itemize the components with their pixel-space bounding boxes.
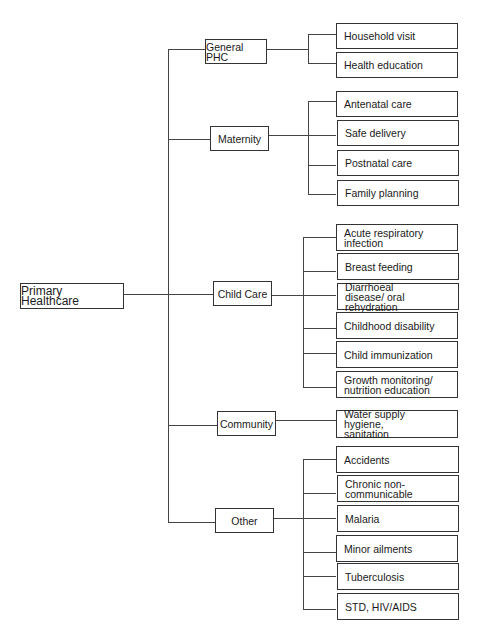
- item-household-visit: Household visit: [336, 23, 458, 49]
- item-label: Chronic non-communicable: [345, 479, 415, 499]
- category-child-care: Child Care: [213, 281, 272, 306]
- branch-trunk: [308, 101, 309, 194]
- item-label: Accidents: [344, 455, 390, 465]
- connector: [303, 237, 336, 238]
- branch-trunk: [303, 459, 304, 609]
- connector: [303, 459, 336, 460]
- item-accidents: Accidents: [336, 446, 459, 473]
- item-label: Malaria: [345, 514, 379, 524]
- connector: [267, 49, 308, 50]
- item-childhood-disability: Childhood disability: [336, 312, 458, 339]
- item-antenatal-care: Antenatal care: [336, 91, 458, 117]
- root-label: Primary Healthcare: [21, 286, 123, 306]
- item-label: Growth monitoring/ nutrition education: [344, 375, 434, 395]
- connector: [276, 420, 336, 421]
- item-health-education: Health education: [336, 52, 458, 78]
- item-minor-ailments: Minor ailments: [336, 535, 458, 562]
- item-label: Breast feeding: [345, 262, 413, 272]
- item-water-supply: Water supply hygiene, sanitation: [336, 410, 458, 438]
- category-label: Other: [231, 516, 257, 526]
- item-label: Safe delivery: [345, 128, 406, 138]
- item-growth-monitoring: Growth monitoring/ nutrition education: [336, 371, 458, 398]
- connector: [269, 135, 336, 136]
- item-label: Diarrhoeal disease/ oral rehydration: [345, 282, 435, 312]
- item-label: Childhood disability: [344, 321, 434, 331]
- item-label: Child immunization: [344, 350, 433, 360]
- connector: [303, 328, 336, 329]
- connector: [303, 353, 336, 354]
- item-label: Antenatal care: [344, 99, 412, 109]
- connector: [303, 576, 336, 577]
- root-node: Primary Healthcare: [20, 283, 124, 309]
- item-label: Household visit: [344, 31, 415, 41]
- item-label: Tuberculosis: [345, 572, 404, 582]
- item-label: Minor ailments: [344, 544, 412, 554]
- category-other: Other: [215, 508, 274, 533]
- item-family-planning: Family planning: [337, 180, 459, 206]
- main-spine: [168, 49, 169, 523]
- category-maternity: Maternity: [210, 126, 269, 151]
- connector: [168, 522, 215, 523]
- category-general-phc: General PHC: [205, 39, 267, 64]
- item-malaria: Malaria: [337, 505, 459, 532]
- connector: [274, 518, 336, 519]
- item-breast-feeding: Breast feeding: [337, 253, 459, 280]
- connector: [168, 294, 213, 295]
- item-label: Health education: [344, 60, 423, 70]
- branch-trunk: [303, 237, 304, 387]
- item-tuberculosis: Tuberculosis: [337, 563, 459, 590]
- connector: [308, 101, 336, 102]
- category-label: Maternity: [218, 134, 261, 144]
- item-label: Postnatal care: [345, 158, 412, 168]
- item-postnatal-care: Postnatal care: [337, 150, 459, 176]
- item-label: Water supply hygiene, sanitation: [344, 409, 429, 439]
- item-label: Family planning: [345, 188, 419, 198]
- item-label: Acute respiratory infection: [344, 228, 434, 248]
- connector: [303, 609, 336, 610]
- category-label: Child Care: [218, 289, 268, 299]
- connector: [124, 294, 168, 295]
- connector: [168, 49, 205, 50]
- connector: [303, 493, 336, 494]
- category-label: General PHC: [206, 42, 266, 62]
- branch-trunk: [308, 34, 309, 63]
- category-community: Community: [217, 411, 276, 436]
- connector: [308, 34, 336, 35]
- connector: [308, 63, 336, 64]
- item-std-hiv-aids: STD, HIV/AIDS: [337, 593, 459, 620]
- item-safe-delivery: Safe delivery: [337, 120, 459, 146]
- connector: [168, 425, 217, 426]
- connector: [308, 165, 336, 166]
- item-chronic-non-communicable: Chronic non-communicable: [337, 475, 459, 502]
- category-label: Community: [220, 419, 273, 429]
- item-diarrhoeal-disease: Diarrhoeal disease/ oral rehydration: [337, 283, 459, 310]
- connector: [303, 552, 336, 553]
- connector: [308, 194, 336, 195]
- item-acute-respiratory-infection: Acute respiratory infection: [336, 224, 458, 251]
- connector: [168, 139, 210, 140]
- connector: [303, 271, 336, 272]
- item-label: STD, HIV/AIDS: [345, 602, 417, 612]
- item-child-immunization: Child immunization: [336, 341, 458, 368]
- connector: [303, 387, 336, 388]
